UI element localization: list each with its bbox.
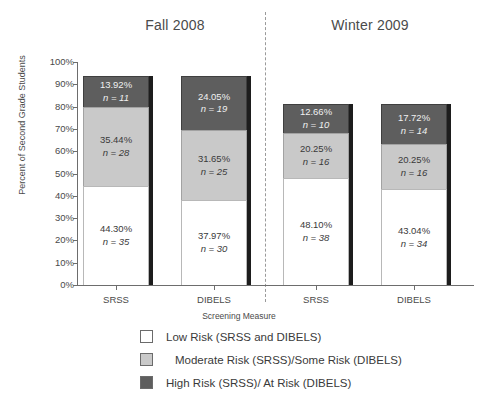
segment-count-label: n = 25	[201, 166, 228, 179]
x-tick-mark	[316, 285, 317, 290]
bar-segment-fall-dibels-high: 24.05%n = 19	[181, 76, 247, 130]
y-tick-mark	[73, 196, 77, 197]
bar-segment-winter-srss-low: 48.10%n = 38	[283, 178, 349, 285]
bar-segment-winter-dibels-low: 43.04%n = 34	[381, 189, 447, 285]
bar-segment-fall-srss-moderate: 35.44%n = 28	[83, 107, 149, 186]
segment-percent-label: 37.97%	[198, 230, 230, 243]
bar-shadow	[247, 76, 251, 285]
legend-item-moderate-risk[interactable]: Moderate Risk (SRSS)/Some Risk (DIBELS)	[140, 348, 478, 371]
y-tick-label: 70%	[40, 124, 74, 134]
x-tick-mark	[116, 285, 117, 290]
legend-swatch-moderate-risk	[140, 353, 153, 366]
segment-percent-label: 35.44%	[100, 134, 132, 147]
segment-percent-label: 48.10%	[300, 219, 332, 232]
legend-item-low-risk[interactable]: Low Risk (SRSS and DIBELS)	[140, 325, 478, 348]
y-tick-label: 50%	[40, 169, 74, 179]
panel-title-fall: Fall 2008	[110, 17, 240, 33]
y-tick-mark	[73, 218, 77, 219]
y-tick-mark	[73, 84, 77, 85]
x-tick-label-dibels-3: DIBELS	[369, 294, 459, 305]
legend-label-moderate-risk: Moderate Risk (SRSS)/Some Risk (DIBELS)	[175, 354, 402, 366]
bar-segment-winter-dibels-high: 17.72%n = 14	[381, 104, 447, 144]
y-tick-label: 30%	[40, 213, 74, 223]
plot-area: 13.92%n = 1135.44%n = 2844.30%n = 3524.0…	[78, 62, 474, 285]
bar-segment-winter-srss-high: 12.66%n = 10	[283, 104, 349, 132]
segment-percent-label: 43.04%	[398, 225, 430, 238]
x-tick-label-srss-2: SRSS	[271, 294, 361, 305]
bar-shadow	[149, 76, 153, 285]
segment-count-label: n = 16	[303, 156, 330, 169]
y-tick-label: 20%	[40, 235, 74, 245]
y-tick-mark	[73, 263, 77, 264]
bar-fall-srss: 13.92%n = 1135.44%n = 2844.30%n = 35	[83, 76, 149, 285]
y-tick-label: 60%	[40, 146, 74, 156]
segment-percent-label: 20.25%	[300, 143, 332, 156]
bar-segment-winter-srss-moderate: 20.25%n = 16	[283, 133, 349, 178]
x-axis-label: Screening Measure	[0, 311, 478, 321]
segment-count-label: n = 35	[103, 236, 130, 249]
y-tick-label: 40%	[40, 191, 74, 201]
x-tick-mark	[414, 285, 415, 290]
segment-count-label: n = 38	[303, 232, 330, 245]
bar-segment-winter-dibels-moderate: 20.25%n = 16	[381, 144, 447, 189]
legend-label-high-risk: High Risk (SRSS)/ At Risk (DIBELS)	[166, 377, 351, 389]
y-tick-mark	[73, 129, 77, 130]
y-tick-mark	[73, 285, 77, 286]
y-tick-mark	[73, 240, 77, 241]
x-tick-label-dibels-1: DIBELS	[169, 294, 259, 305]
bar-winter-srss: 12.66%n = 1020.25%n = 1648.10%n = 38	[283, 104, 349, 285]
y-tick-mark	[73, 62, 77, 63]
legend-item-high-risk[interactable]: High Risk (SRSS)/ At Risk (DIBELS)	[140, 371, 478, 394]
chart-root: Fall 2008 Winter 2009 Percent of Second …	[0, 0, 478, 409]
segment-percent-label: 12.66%	[300, 106, 332, 119]
segment-count-label: n = 28	[103, 147, 130, 160]
segment-count-label: n = 14	[401, 125, 428, 138]
y-tick-label: 0%	[40, 280, 74, 290]
chart-legend: Low Risk (SRSS and DIBELS) Moderate Risk…	[140, 325, 478, 394]
y-tick-label: 90%	[40, 79, 74, 89]
segment-count-label: n = 19	[201, 103, 228, 116]
bar-shadow	[349, 104, 353, 285]
panel-title-winter: Winter 2009	[305, 17, 435, 33]
bar-shadow	[447, 104, 451, 285]
y-axis-label: Percent of Second Grade Students	[17, 25, 27, 225]
segment-percent-label: 31.65%	[198, 153, 230, 166]
segment-count-label: n = 30	[201, 243, 228, 256]
segment-count-label: n = 34	[401, 238, 428, 251]
y-tick-label: 100%	[40, 57, 74, 67]
x-tick-label-srss-0: SRSS	[71, 294, 161, 305]
y-tick-label: 80%	[40, 102, 74, 112]
bar-fall-dibels: 24.05%n = 1931.65%n = 2537.97%n = 30	[181, 76, 247, 285]
segment-percent-label: 20.25%	[398, 154, 430, 167]
y-tick-mark	[73, 174, 77, 175]
bar-winter-dibels: 17.72%n = 1420.25%n = 1643.04%n = 34	[381, 104, 447, 285]
segment-percent-label: 13.92%	[100, 79, 132, 92]
y-tick-label: 10%	[40, 258, 74, 268]
segment-percent-label: 24.05%	[198, 91, 230, 104]
bar-segment-fall-dibels-moderate: 31.65%n = 25	[181, 130, 247, 201]
segment-count-label: n = 11	[103, 92, 129, 105]
bar-segment-fall-srss-low: 44.30%n = 35	[83, 186, 149, 285]
bar-segment-fall-dibels-low: 37.97%n = 30	[181, 200, 247, 285]
y-tick-mark	[73, 151, 77, 152]
legend-swatch-low-risk	[140, 330, 153, 343]
segment-percent-label: 17.72%	[398, 112, 430, 125]
legend-swatch-high-risk	[140, 376, 153, 389]
segment-count-label: n = 16	[401, 167, 428, 180]
legend-label-low-risk: Low Risk (SRSS and DIBELS)	[166, 331, 321, 343]
x-tick-mark	[214, 285, 215, 290]
segment-count-label: n = 10	[303, 119, 330, 132]
segment-percent-label: 44.30%	[100, 223, 132, 236]
bar-segment-fall-srss-high: 13.92%n = 11	[83, 76, 149, 107]
y-tick-mark	[73, 107, 77, 108]
